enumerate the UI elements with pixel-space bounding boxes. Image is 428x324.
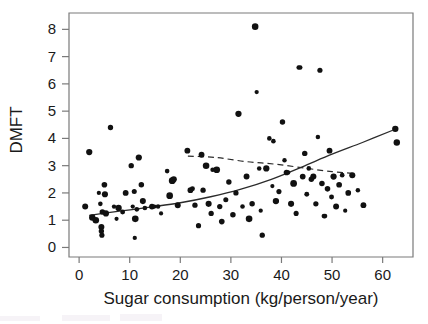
data-point bbox=[129, 163, 134, 168]
y-tick-label: 4 bbox=[48, 129, 56, 146]
data-point bbox=[271, 139, 276, 144]
data-point bbox=[267, 136, 272, 141]
data-point bbox=[330, 173, 336, 179]
x-tick-label: 50 bbox=[324, 266, 341, 283]
data-point bbox=[86, 149, 92, 155]
data-point bbox=[246, 216, 253, 223]
data-point bbox=[286, 170, 291, 175]
data-point bbox=[313, 201, 318, 206]
data-point bbox=[294, 211, 299, 216]
data-point bbox=[327, 148, 333, 154]
data-point bbox=[98, 202, 103, 207]
data-point bbox=[329, 195, 334, 200]
y-tick-label: 5 bbox=[48, 102, 56, 119]
data-point bbox=[165, 169, 170, 174]
data-point bbox=[290, 180, 297, 187]
x-tick-label: 10 bbox=[121, 266, 138, 283]
data-point bbox=[230, 212, 236, 218]
data-point bbox=[255, 90, 259, 94]
data-point bbox=[192, 203, 197, 208]
y-tick-label: 2 bbox=[48, 184, 56, 201]
data-point bbox=[356, 188, 361, 193]
data-point bbox=[288, 201, 294, 207]
data-point bbox=[123, 190, 129, 196]
data-point bbox=[244, 174, 250, 180]
data-point bbox=[319, 181, 325, 187]
x-tick-label: 30 bbox=[223, 266, 240, 283]
data-point bbox=[298, 65, 303, 70]
x-tick-label: 40 bbox=[273, 266, 290, 283]
y-tick-label: 1 bbox=[48, 211, 56, 228]
data-point bbox=[273, 198, 279, 204]
data-point bbox=[263, 165, 269, 171]
data-point bbox=[115, 205, 121, 211]
data-point bbox=[132, 189, 137, 194]
x-tick-label: 60 bbox=[374, 266, 391, 283]
data-point bbox=[139, 182, 145, 188]
data-point bbox=[217, 204, 222, 209]
data-points bbox=[82, 23, 400, 240]
data-point bbox=[93, 217, 100, 224]
scatter-plot-figure: 0102030405060 012345678 Sugar consumptio… bbox=[0, 0, 428, 324]
data-point bbox=[136, 154, 142, 160]
chart-canvas: 0102030405060 012345678 Sugar consumptio… bbox=[0, 0, 428, 324]
data-point bbox=[349, 172, 355, 178]
data-point bbox=[249, 201, 254, 206]
data-point bbox=[102, 191, 108, 197]
plot-border bbox=[69, 13, 413, 257]
data-point bbox=[333, 204, 339, 210]
data-point bbox=[361, 202, 367, 208]
data-point bbox=[114, 217, 118, 221]
data-point bbox=[252, 23, 259, 30]
y-tick-label: 3 bbox=[48, 157, 56, 174]
x-axis-title: Sugar consumption (kg/person/year) bbox=[104, 289, 379, 308]
data-point bbox=[276, 189, 281, 194]
data-point bbox=[132, 216, 139, 223]
data-point bbox=[97, 191, 101, 195]
data-point bbox=[190, 186, 195, 191]
data-point bbox=[310, 174, 316, 180]
x-tick-label: 0 bbox=[75, 266, 83, 283]
data-point bbox=[260, 233, 265, 238]
data-point bbox=[304, 192, 309, 197]
y-tick-label: 7 bbox=[48, 48, 56, 65]
data-point bbox=[143, 206, 148, 211]
data-point bbox=[223, 197, 228, 202]
data-point bbox=[306, 166, 311, 171]
data-point bbox=[270, 184, 274, 188]
data-point bbox=[282, 158, 286, 162]
data-point bbox=[240, 204, 245, 209]
data-point bbox=[323, 214, 328, 219]
data-point bbox=[336, 182, 342, 188]
data-point bbox=[184, 148, 190, 154]
data-point bbox=[199, 152, 205, 158]
data-point bbox=[257, 166, 262, 171]
data-point bbox=[209, 211, 214, 216]
data-point bbox=[259, 209, 263, 213]
data-point bbox=[340, 173, 345, 178]
data-point bbox=[302, 151, 307, 156]
data-point bbox=[300, 174, 306, 180]
data-point bbox=[203, 162, 210, 169]
data-point bbox=[131, 204, 135, 208]
x-axis-ticks: 0102030405060 bbox=[75, 257, 391, 283]
scan-artifacts bbox=[0, 314, 162, 321]
y-tick-label: 0 bbox=[48, 238, 56, 255]
x-tick-label: 20 bbox=[172, 266, 189, 283]
plot-frame bbox=[69, 13, 413, 257]
data-point bbox=[102, 182, 108, 188]
data-point bbox=[175, 202, 181, 208]
data-point bbox=[394, 139, 400, 145]
y-axis-ticks: 012345678 bbox=[48, 20, 69, 255]
y-axis-title: DMFT bbox=[7, 106, 26, 153]
data-point bbox=[213, 166, 220, 173]
data-point bbox=[103, 210, 109, 216]
data-point bbox=[233, 190, 238, 195]
y-tick-label: 8 bbox=[48, 20, 56, 37]
data-point bbox=[196, 223, 201, 228]
data-point bbox=[99, 233, 104, 238]
data-point bbox=[140, 198, 146, 204]
data-point bbox=[343, 209, 347, 213]
data-point bbox=[200, 188, 205, 193]
trend-lines bbox=[89, 130, 393, 215]
